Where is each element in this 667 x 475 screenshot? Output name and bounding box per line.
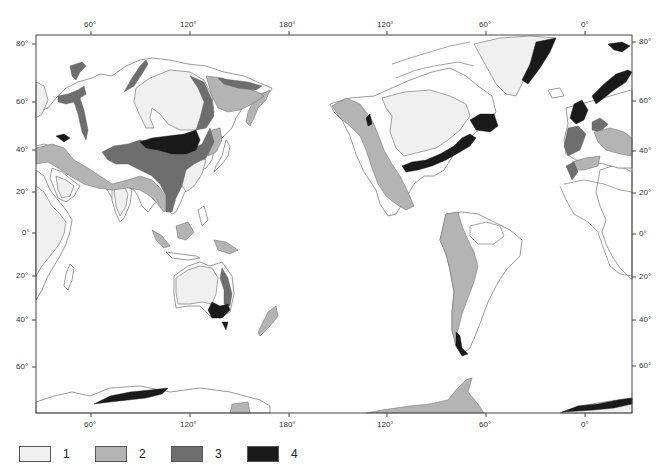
legend-swatch [19,446,51,462]
bottom-tick-label: 0° [581,421,589,429]
top-tick-label: 60° [84,21,96,29]
left-tick-label: 60° [16,98,28,106]
left-tick-label: 60° [16,363,28,371]
legend-label: 3 [215,447,222,461]
top-tick-label: 60° [479,21,491,29]
right-tick-label: 20° [639,273,651,281]
legend-label: 4 [291,447,298,461]
bottom-tick-label: 120° [180,421,197,429]
left-tick-label: 20° [16,188,28,196]
bottom-tick-label: 60° [84,421,96,429]
top-tick-label: 180° [279,21,296,29]
top-tick-label: 120° [377,21,394,29]
top-tick-label: 0° [581,21,589,29]
right-tick-label: 80° [639,38,651,46]
left-tick-label: 40° [16,316,28,324]
right-tick-label: 40° [639,316,651,324]
world-map [0,0,667,475]
zone2-ross-sea [230,402,250,413]
left-tick-label: 40° [16,146,28,154]
europe [564,42,632,180]
zone2-new-zealand [258,306,278,336]
zone4-svalbard [608,42,630,52]
legend-label: 2 [139,447,146,461]
se-asia-islands [152,206,238,260]
legend-swatch [247,446,279,462]
australia [174,262,278,336]
bottom-tick-label: 120° [377,421,394,429]
legend-swatch [171,446,203,462]
left-tick-label: 0° [22,229,30,237]
top-tick-label: 120° [180,21,197,29]
zone2-antarctic-peninsula [366,378,484,413]
zone4-tasmania [222,322,228,330]
south-america [440,212,522,356]
right-tick-label: 40° [639,147,651,155]
left-tick-label: 80° [16,40,28,48]
right-tick-label: 60° [639,362,651,370]
north-america [330,36,564,216]
legend-item-4: 4 [247,446,298,462]
zone3-novaya-zemlya [70,62,86,80]
legend-item-1: 1 [19,446,70,462]
legend-item-2: 2 [95,446,146,462]
legend-item-3: 3 [171,446,222,462]
legend-swatch [95,446,127,462]
right-tick-label: 0° [639,230,647,238]
right-tick-label: 60° [639,97,651,105]
left-tick-label: 20° [16,272,28,280]
bottom-tick-label: 180° [279,421,296,429]
bottom-tick-label: 60° [479,421,491,429]
antarctica [36,378,632,413]
right-tick-label: 20° [639,189,651,197]
legend-label: 1 [63,447,70,461]
